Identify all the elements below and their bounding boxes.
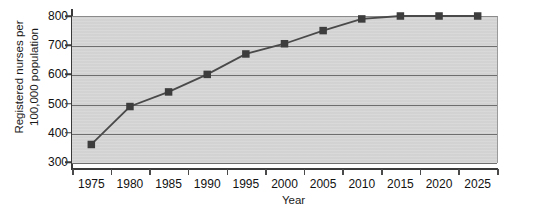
x-axis-tick-mark — [111, 169, 113, 175]
data-series-layer — [72, 16, 497, 162]
series-markers — [88, 12, 482, 148]
y-axis-tick-label: 500 — [28, 97, 68, 111]
x-axis-tick-mark — [227, 169, 229, 175]
x-axis-tick-mark — [149, 169, 151, 175]
y-axis-tick-label: 600 — [28, 67, 68, 81]
data-point-marker — [358, 15, 366, 23]
x-axis-tick-mark — [342, 169, 344, 175]
x-axis-tick-mark — [188, 169, 190, 175]
series-line — [91, 16, 477, 144]
x-axis-tick-labels: 1975198019851990199520002005201020152020… — [0, 177, 559, 193]
x-axis-line — [71, 168, 498, 170]
x-axis-tick-mark — [420, 169, 422, 175]
data-point-marker — [165, 88, 173, 96]
x-axis-tick-mark — [458, 169, 460, 175]
y-axis-tick-mark — [65, 44, 72, 46]
x-axis-tick-mark — [265, 169, 267, 175]
x-axis-tick-mark — [72, 169, 74, 175]
data-point-marker — [281, 40, 289, 48]
y-axis-tick-mark — [65, 15, 72, 17]
data-point-marker — [474, 12, 482, 20]
y-axis-tick-mark — [65, 161, 72, 163]
data-point-marker — [203, 71, 211, 79]
x-axis-title: Year — [0, 194, 559, 206]
y-axis-tick-mark — [65, 103, 72, 105]
y-axis-tick-mark — [65, 132, 72, 134]
x-axis-tick-label: 2025 — [455, 177, 501, 191]
y-axis-tick-label: 400 — [28, 126, 68, 140]
data-point-marker — [435, 12, 443, 20]
y-axis-tick-mark — [65, 74, 72, 76]
y-axis-tick-label: 300 — [28, 155, 68, 169]
x-axis-tick-mark — [381, 169, 383, 175]
y-axis-tick-labels: 800700600500400300 — [28, 9, 68, 169]
y-axis-tick-label: 800 — [28, 9, 68, 23]
line-chart-figure: Registered nurses per 100,000 population… — [0, 0, 559, 213]
data-point-marker — [126, 103, 134, 111]
data-point-marker — [319, 27, 327, 34]
y-axis-tick-label: 700 — [28, 38, 68, 52]
gridline — [72, 163, 497, 164]
data-point-marker — [88, 141, 96, 149]
data-point-marker — [397, 12, 405, 20]
x-axis-title-text: Year — [282, 194, 305, 206]
y-axis-title-line-1: Registered nurses per — [12, 0, 27, 162]
x-axis-tick-mark — [304, 169, 306, 175]
data-point-marker — [242, 50, 250, 58]
x-axis-tick-mark — [497, 169, 499, 175]
